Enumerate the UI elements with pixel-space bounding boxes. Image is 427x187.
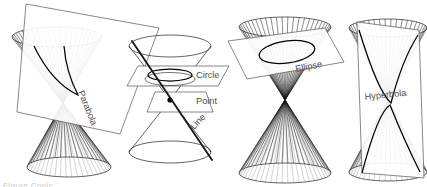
ellipse-bottom-rim [239, 163, 331, 183]
panel-degenerate: Circle Point Line [127, 35, 229, 163]
figure-caption: Figure Conic [3, 181, 53, 187]
ellipse-lower-cone [239, 100, 331, 183]
panel-ellipse: Ellipse [228, 17, 344, 183]
conic-sections-figure: Parabola Circle Point Line Ellipse [0, 0, 427, 187]
line-label: Line [188, 112, 207, 131]
circle-label: Circle [196, 70, 219, 80]
point-label: Point [196, 96, 217, 106]
parabola-bottom-rim [27, 157, 111, 177]
panel-parabola: Parabola [12, 4, 159, 177]
conic-sections-svg: Parabola Circle Point Line Ellipse [0, 0, 427, 187]
degenerate-bottom-rim [129, 141, 211, 163]
panel-hyperbola: Hyperbola [349, 19, 427, 181]
